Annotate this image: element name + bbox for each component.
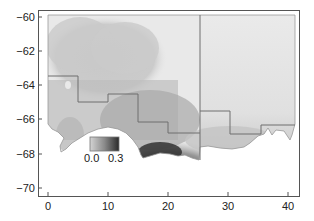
y-tick-label: −66 [16, 113, 35, 125]
x-tick-label: 40 [282, 200, 294, 212]
x-tick-label: 20 [162, 200, 174, 212]
colorbar-min-label: 0.0 [84, 152, 99, 164]
x-tick-label: 0 [45, 200, 51, 212]
y-tick-label: −62 [16, 45, 35, 57]
x-tick-label: 10 [102, 200, 114, 212]
map-chart: 0.0 0.3 −60 −62 −64 −66 −68 −70 0 10 20 … [0, 0, 314, 221]
y-tick-label: −68 [16, 148, 35, 160]
y-tick-label: −60 [16, 11, 35, 23]
x-tick-labels: 0 10 20 30 40 [45, 200, 294, 212]
y-tick-label: −70 [16, 182, 35, 194]
y-tick-label: −64 [16, 79, 35, 91]
y-tick-labels: −60 −62 −64 −66 −68 −70 [16, 11, 35, 194]
colorbar-max-label: 0.3 [108, 152, 123, 164]
colorbar-gradient [90, 137, 119, 151]
x-tick-label: 30 [222, 200, 234, 212]
